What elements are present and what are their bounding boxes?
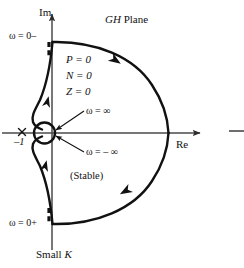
real-axis-label: Re	[176, 139, 188, 150]
plane-label-italic: GH	[105, 13, 121, 25]
critical-point-label: –1	[14, 137, 25, 148]
leader-omega-negative-infinity	[56, 136, 84, 152]
gain-note-italic: K	[64, 248, 71, 260]
critical-point-marker-icon	[19, 129, 26, 136]
imaginary-axis-label: Im	[39, 7, 51, 18]
omega-negative-infinity-label: ω = – ∞	[86, 147, 118, 157]
nyquist-diagram-figure: Im Re GH Plane ω = 0– P = 0 N = 0 Z = 0 …	[0, 0, 244, 268]
callout-leaders-group	[56, 111, 84, 152]
count-z-label: Z = 0	[66, 86, 91, 97]
stable-note-label: (Stable)	[70, 171, 103, 182]
leader-omega-infinity	[56, 111, 84, 130]
count-n-label: N = 0	[66, 70, 92, 81]
omega-zero-minus-label: ω = 0–	[9, 31, 36, 41]
direction-arrow-lower-right-icon	[118, 184, 133, 198]
plane-label-rest: Plane	[121, 13, 148, 25]
plane-label: GH Plane	[105, 14, 148, 25]
gain-note-rest: Small	[36, 248, 64, 260]
omega-zero-plus-label: ω = 0+	[9, 218, 37, 228]
count-p-label: P = 0	[66, 54, 91, 65]
omega-infinity-label: ω = ∞	[86, 106, 110, 116]
gain-note-label: Small K	[36, 249, 72, 260]
direction-arrow-upper-inner-icon	[42, 95, 53, 108]
